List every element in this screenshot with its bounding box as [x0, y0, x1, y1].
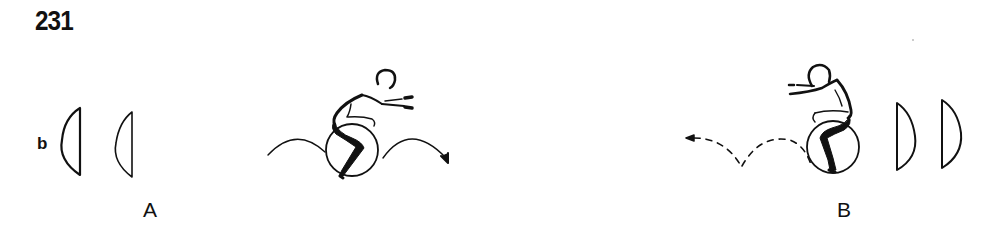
legs — [332, 122, 364, 176]
motion-arc-left — [268, 139, 325, 155]
row-label: b — [37, 134, 47, 154]
arms — [382, 104, 404, 106]
arms — [790, 80, 837, 94]
lens-icon — [61, 108, 80, 175]
panel-label-a: A — [143, 198, 157, 222]
lens-icon — [897, 103, 915, 170]
lens-icon — [942, 100, 961, 168]
figure-a-person-on-ball — [268, 70, 448, 178]
panel-label-b: B — [837, 198, 851, 222]
motion-arc-dashed-far — [694, 138, 741, 166]
lens-group-right — [897, 100, 961, 170]
figure-b-person-on-ball — [686, 65, 859, 173]
head-icon — [809, 65, 830, 86]
legs — [820, 116, 850, 170]
figure-number: 231 — [35, 6, 73, 37]
arrow-left-icon — [686, 135, 694, 141]
lens-group-left — [61, 108, 132, 177]
head-icon — [377, 70, 395, 88]
motion-arc-dashed-near — [742, 139, 812, 168]
lens-icon — [115, 112, 132, 177]
torso — [334, 95, 362, 125]
motion-arc-right — [383, 139, 446, 158]
